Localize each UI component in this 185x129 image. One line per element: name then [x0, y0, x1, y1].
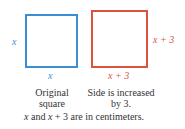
- original-side-left-label: x: [12, 37, 16, 47]
- increased-side-bottom-label: x + 3: [108, 71, 129, 81]
- original-side-bottom-label: x: [48, 71, 52, 81]
- increased-square: [91, 10, 148, 68]
- original-square-caption: Original square: [26, 87, 78, 109]
- increased-side-right-label: x + 3: [153, 35, 174, 45]
- increased-square-caption: Side is increased by 3.: [84, 87, 158, 109]
- footnote-text: and: [28, 111, 47, 122]
- caption-line: square: [26, 98, 78, 109]
- caption-line: Original: [26, 87, 78, 98]
- caption-line: Side is increased: [84, 87, 158, 98]
- units-footnote: x and x + 3 are in centimeters.: [24, 111, 144, 122]
- original-square: [25, 14, 78, 68]
- footnote-text: + 3 are in centimeters.: [52, 111, 144, 122]
- caption-line: by 3.: [84, 98, 158, 109]
